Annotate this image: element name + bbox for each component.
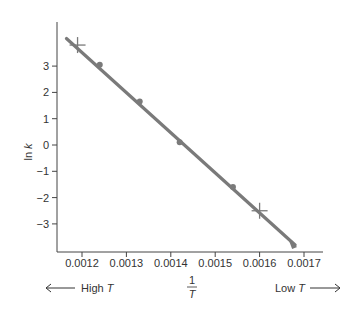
y-tick-label: −1	[36, 165, 49, 177]
y-tick-label: 3	[43, 60, 49, 72]
low-t-label: Low T	[275, 282, 306, 294]
x-ticks: 0.00120.00130.00140.00150.00160.0017	[65, 252, 321, 269]
high-t-label: High T	[81, 282, 115, 294]
x-tick-label: 0.0016	[243, 257, 277, 269]
y-axis-label: ln k	[22, 143, 34, 161]
x-tick-label: 0.0012	[65, 257, 99, 269]
data-point-cross-icon	[70, 37, 86, 53]
arrhenius-chart: 3210−1−2−3 0.00120.00130.00140.00150.001…	[0, 0, 355, 315]
y-tick-label: −2	[36, 192, 49, 204]
x-tick-label: 0.0015	[198, 257, 232, 269]
y-ticks: 3210−1−2−3	[36, 60, 57, 230]
y-tick-label: 1	[43, 113, 49, 125]
x-label-denominator: T	[189, 288, 197, 300]
y-tick-label: 2	[43, 86, 49, 98]
x-tick-label: 0.0014	[154, 257, 188, 269]
data-point-dot	[177, 139, 183, 145]
data-point-dot	[97, 62, 103, 68]
x-axis-label: 1 T	[187, 274, 197, 300]
plot-series	[66, 37, 297, 249]
x-tick-label: 0.0013	[110, 257, 144, 269]
x-label-numerator: 1	[189, 274, 195, 286]
low-temperature-annotation: Low T	[275, 282, 340, 294]
data-point-dot	[230, 184, 236, 190]
x-tick-label: 0.0017	[287, 257, 321, 269]
high-temperature-annotation: High T	[46, 282, 115, 294]
axes	[57, 22, 323, 252]
data-point-dot	[137, 99, 143, 105]
y-tick-label: 0	[43, 139, 49, 151]
y-tick-label: −3	[36, 218, 49, 230]
